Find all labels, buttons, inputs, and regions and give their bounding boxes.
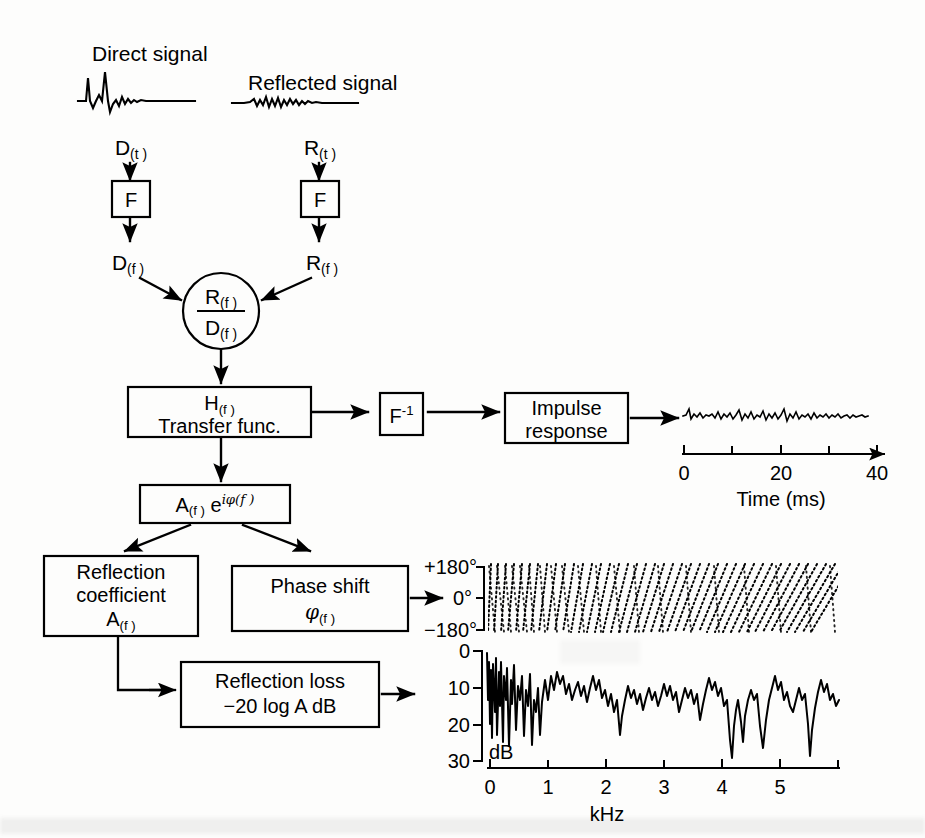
phase-tick-plus180: +180° <box>424 557 472 577</box>
ratio-denominator-label: D(f ) <box>205 317 237 342</box>
polar-exponent: iφ(f ) <box>222 492 255 507</box>
phase-plot-axis <box>477 567 484 630</box>
impulse-response-trace <box>683 409 868 421</box>
time-axis-title: Time (ms) <box>736 489 825 509</box>
direct-signal-waveform <box>78 72 195 112</box>
db-plot-axis <box>474 651 482 761</box>
arrow-rf-to-ratio <box>262 278 311 300</box>
impulse-response-line1: Impulse <box>505 397 628 419</box>
frequency-axis <box>488 760 839 768</box>
r-of-t-subscript: (t ) <box>319 146 336 162</box>
d-of-t-subscript: (t ) <box>130 146 147 162</box>
reflection-coefficient-line1: Reflection <box>44 561 198 583</box>
f-box-reflected-label: F <box>301 189 339 211</box>
d-of-f-subscript: (f ) <box>127 261 144 277</box>
freq-tick-0: 0 <box>484 777 495 797</box>
phase-tick-zero: 0° <box>424 588 472 608</box>
reflection-coefficient-subscript: (f ) <box>120 618 136 633</box>
phase-tick-minus180: −180° <box>424 620 472 640</box>
arrow-polar-to-reflection-coeff <box>125 525 190 551</box>
transfer-function-caption: Transfer func. <box>128 415 311 437</box>
d-of-t-label: D(t ) <box>115 137 147 162</box>
freq-tick-3: 3 <box>658 777 669 797</box>
ratio-denominator-subscript: (f ) <box>220 326 237 342</box>
time-tick-20: 20 <box>770 463 792 483</box>
ratio-numerator-label: R(f ) <box>205 286 237 311</box>
arrow-df-to-ratio <box>140 278 181 300</box>
time-axis <box>683 446 884 454</box>
db-tick-20: 20 <box>432 715 470 735</box>
arrow-coeff-to-loss <box>118 638 175 690</box>
reflected-signal-waveform <box>232 97 358 107</box>
direct-signal-label: Direct signal <box>92 43 208 64</box>
polar-form-label: A(f ) eiφ(f ) <box>140 493 290 519</box>
phase-shift-subscript: (f ) <box>319 611 335 626</box>
ratio-numerator-subscript: (f ) <box>220 295 237 311</box>
inverse-fourier-label: F-1 <box>380 404 423 427</box>
db-axis-unit: dB <box>489 742 513 762</box>
r-of-f-subscript: (f ) <box>321 261 338 277</box>
reflection-coefficient-symbol: A(f ) <box>44 608 198 633</box>
freq-tick-1: 1 <box>542 777 553 797</box>
reflection-coefficient-line2: coefficient <box>44 584 198 606</box>
diagram-canvas: Direct signal Reflected signal D(t ) R(t… <box>0 0 925 838</box>
phi-glyph: φ <box>305 600 319 624</box>
db-tick-30: 30 <box>432 751 470 771</box>
inverse-fourier-f: F <box>390 405 402 427</box>
reflection-loss-trace <box>487 653 839 758</box>
transfer-function-symbol: H(f ) <box>128 392 311 417</box>
polar-amplitude-subscript: (f ) <box>189 503 205 518</box>
impulse-response-line2: response <box>505 420 628 442</box>
r-of-t-label: R(t ) <box>304 137 336 162</box>
inverse-fourier-superscript: -1 <box>402 403 414 418</box>
reflection-loss-line2: −20 log A dB <box>181 695 379 717</box>
time-tick-40: 40 <box>866 463 888 483</box>
d-of-f-label: D(f ) <box>112 252 144 277</box>
arrow-polar-to-phase-shift <box>243 525 310 551</box>
phase-shift-line1: Phase shift <box>232 575 408 597</box>
phase-shift-symbol: φ(f ) <box>232 601 408 626</box>
r-of-f-label: R(f ) <box>306 252 338 277</box>
freq-tick-2: 2 <box>600 777 611 797</box>
time-tick-0: 0 <box>678 463 689 483</box>
freq-tick-5: 5 <box>774 777 785 797</box>
frequency-axis-title: kHz <box>590 804 624 824</box>
freq-tick-4: 4 <box>716 777 727 797</box>
reflected-signal-label: Reflected signal <box>248 72 397 93</box>
db-tick-0: 0 <box>432 641 470 661</box>
reflection-loss-line1: Reflection loss <box>181 670 379 692</box>
f-box-direct-label: F <box>112 189 150 211</box>
db-tick-10: 10 <box>432 678 470 698</box>
